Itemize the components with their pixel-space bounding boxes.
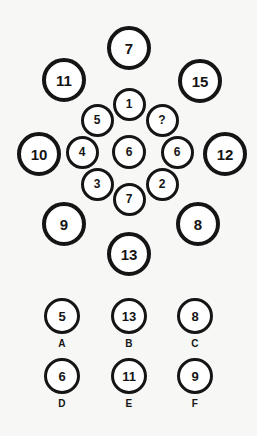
puzzle-node-outer-lower-left: 9 [42, 202, 86, 246]
answer-option-label: B [100, 338, 158, 349]
puzzle-node-inner-top: 1 [113, 88, 146, 121]
answer-option-value[interactable]: 5 [44, 298, 80, 334]
puzzle-node-inner-bottom: 7 [113, 183, 146, 216]
answer-option-label: F [166, 398, 224, 409]
puzzle-node-outer-right: 12 [203, 132, 247, 176]
puzzle-node-inner-upper-left: 5 [81, 104, 114, 137]
answer-option-value[interactable]: 11 [111, 358, 147, 394]
puzzle-node-inner-right: 6 [161, 136, 194, 169]
puzzle-node-outer-left: 10 [17, 132, 61, 176]
answer-option-f[interactable]: 9F [166, 358, 224, 409]
answer-option-label: D [33, 398, 91, 409]
answer-option-label: E [100, 398, 158, 409]
puzzle-node-outer-upper-right: 15 [178, 59, 222, 103]
puzzle-node-outer-lower-right: 8 [176, 202, 220, 246]
answer-option-value[interactable]: 13 [111, 298, 147, 334]
answer-option-value[interactable]: 6 [44, 358, 80, 394]
answer-option-e[interactable]: 11E [100, 358, 158, 409]
answer-options-panel: 5A13B8C6D11E9F [0, 290, 257, 436]
puzzle-node-outer-upper-left: 11 [42, 58, 86, 102]
answer-option-a[interactable]: 5A [33, 298, 91, 349]
answer-option-b[interactable]: 13B [100, 298, 158, 349]
puzzle-node-inner-left: 4 [66, 136, 99, 169]
puzzle-node-inner-lower-right: 2 [146, 168, 179, 201]
answer-option-value[interactable]: 8 [177, 298, 213, 334]
answer-option-d[interactable]: 6D [33, 358, 91, 409]
puzzle-node-outer-top: 7 [107, 26, 151, 70]
puzzle-node-inner-lower-left: 3 [81, 168, 114, 201]
puzzle-node-outer-bottom: 13 [107, 232, 151, 276]
answer-option-label: C [166, 338, 224, 349]
answer-option-label: A [33, 338, 91, 349]
puzzle-diagram: 71512813910111?6273456 [0, 0, 257, 290]
answer-option-value[interactable]: 9 [177, 358, 213, 394]
answer-option-c[interactable]: 8C [166, 298, 224, 349]
puzzle-node-missing-value: ? [146, 104, 179, 137]
puzzle-node-center: 6 [112, 135, 146, 169]
